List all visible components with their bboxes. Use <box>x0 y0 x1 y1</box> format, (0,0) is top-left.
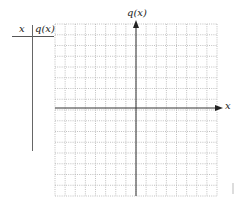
y-axis-arrow-icon <box>133 20 139 28</box>
coordinate-grid <box>0 0 235 202</box>
x-axis-label: x <box>225 101 231 111</box>
x-axis-arrow-icon <box>215 105 223 111</box>
y-axis-label: q(x) <box>127 8 147 18</box>
